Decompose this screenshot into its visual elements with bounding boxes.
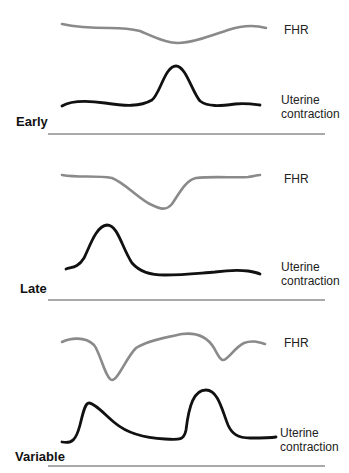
contraction-label-late-line2: contraction — [281, 274, 340, 288]
fhr-label-early: FHR — [284, 23, 309, 37]
fhr-label-late: FHR — [284, 172, 309, 186]
contraction-label-variable-line1: Uterine — [280, 426, 319, 440]
fhr-trace-early — [62, 24, 266, 43]
deceleration-diagram — [0, 0, 349, 473]
pattern-label-late: Late — [20, 281, 47, 296]
fhr-trace-late — [62, 175, 260, 209]
contraction-label-late-line1: Uterine — [281, 260, 320, 274]
pattern-label-variable: Variable — [15, 449, 65, 464]
contraction-trace-late — [66, 225, 260, 275]
fhr-label-variable: FHR — [284, 336, 309, 350]
contraction-trace-variable — [62, 390, 276, 442]
contraction-label-early-line2: contraction — [281, 107, 340, 121]
fhr-trace-variable — [62, 334, 265, 380]
contraction-label-early-line1: Uterine — [281, 93, 320, 107]
contraction-label-variable-line2: contraction — [280, 440, 339, 454]
contraction-trace-early — [62, 66, 260, 106]
pattern-label-early: Early — [16, 114, 48, 129]
